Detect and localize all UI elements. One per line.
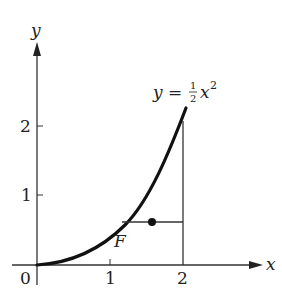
- segment-point: [148, 218, 156, 226]
- equation-numerator: 1: [190, 80, 196, 91]
- curve-equation-label: y = 1 2 x 2: [152, 79, 217, 104]
- y-axis-label: y: [30, 20, 41, 40]
- equation-exponent: 2: [210, 79, 217, 92]
- y-tick-label-2: 2: [20, 116, 31, 136]
- x-tick-label-2: 2: [177, 268, 188, 288]
- x-tick-label-1: 1: [105, 268, 116, 288]
- diagram-canvas: y x 2 1 0 1 2 F y = 1 2 x 2: [0, 0, 282, 301]
- equation-denominator: 2: [190, 93, 196, 104]
- equation-variable: x: [200, 82, 210, 102]
- region-label: F: [113, 231, 127, 251]
- y-tick-label-1: 1: [21, 185, 32, 205]
- equation-lhs: y =: [152, 82, 188, 102]
- parabola-curve: [37, 108, 186, 265]
- y-axis-arrow-icon: [33, 42, 41, 56]
- origin-label: 0: [20, 268, 31, 288]
- x-axis-label: x: [266, 254, 276, 274]
- x-axis-arrow-icon: [249, 261, 263, 269]
